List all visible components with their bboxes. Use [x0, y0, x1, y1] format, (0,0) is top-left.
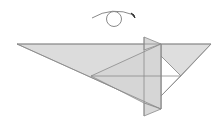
origami-diagram [0, 0, 220, 124]
turn-over-icon [92, 11, 135, 26]
